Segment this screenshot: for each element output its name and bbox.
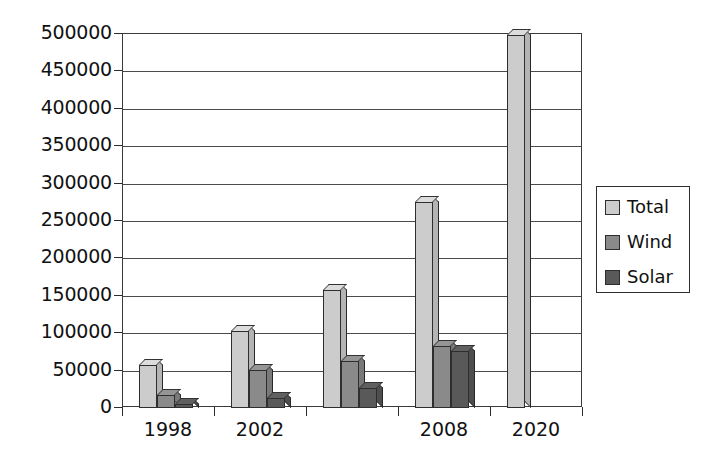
y-axis-tick-label: 300000 xyxy=(41,173,112,192)
bar-side-face xyxy=(525,29,531,408)
bar xyxy=(249,370,267,408)
bar-chart: 5000004500004000003500003000002500002000… xyxy=(0,0,708,461)
y-axis-tick-label: 200000 xyxy=(41,247,112,266)
y-axis-tick-label: 350000 xyxy=(41,135,112,154)
x-axis-tickmark xyxy=(582,407,583,416)
y-axis-labels: 5000004500004000003500003000002500002000… xyxy=(18,0,112,461)
bar xyxy=(267,398,285,408)
legend-label: Solar xyxy=(627,268,673,286)
y-axis-tick-label: 500000 xyxy=(41,23,112,42)
bar xyxy=(451,351,469,408)
legend-item[interactable]: Solar xyxy=(605,268,673,286)
bar xyxy=(323,290,341,408)
legend-swatch-icon xyxy=(605,200,620,215)
bar xyxy=(415,202,433,408)
bar xyxy=(139,365,157,408)
x-axis-tick-label: 1998 xyxy=(122,418,214,440)
bar xyxy=(433,346,451,408)
y-axis-tick-label: 400000 xyxy=(41,98,112,117)
x-axis-tick-label: 2020 xyxy=(490,418,582,440)
y-axis-tick-label: 450000 xyxy=(41,60,112,79)
legend-label: Wind xyxy=(627,233,672,251)
bar xyxy=(507,35,525,408)
x-axis-tickmark xyxy=(214,407,215,416)
y-axis-tick-label: 100000 xyxy=(41,322,112,341)
bar xyxy=(231,331,249,408)
bar-side-face xyxy=(469,345,475,408)
legend-label: Total xyxy=(627,198,669,216)
bar xyxy=(359,388,377,408)
x-axis-tickmark xyxy=(490,407,491,416)
plot-area xyxy=(122,33,582,407)
legend: TotalWindSolar xyxy=(596,186,690,293)
x-axis-tick-label: 2002 xyxy=(214,418,306,440)
legend-item[interactable]: Total xyxy=(605,198,669,216)
legend-swatch-icon xyxy=(605,235,620,250)
bar xyxy=(157,395,175,408)
bar xyxy=(175,404,193,408)
legend-item[interactable]: Wind xyxy=(605,233,672,251)
x-axis-tickmark xyxy=(122,407,123,416)
x-axis-tickmark xyxy=(398,407,399,416)
x-axis-tickmark xyxy=(306,407,307,416)
y-axis-tick-label: 0 xyxy=(100,397,112,416)
bar xyxy=(341,361,359,408)
x-axis-tick-label: 2008 xyxy=(398,418,490,440)
legend-swatch-icon xyxy=(605,270,620,285)
y-axis-tick-label: 150000 xyxy=(41,285,112,304)
y-axis-tick-label: 50000 xyxy=(53,360,112,379)
y-axis-tick-label: 250000 xyxy=(41,210,112,229)
